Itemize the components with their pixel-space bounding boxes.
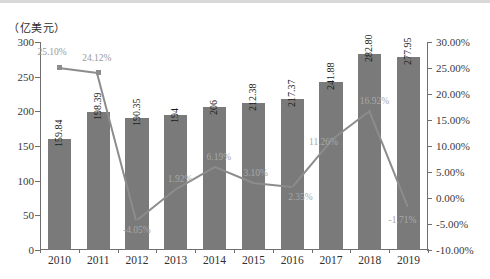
x-axis-tick bbox=[118, 249, 119, 253]
right-axis-tick-label: 15.00% bbox=[436, 114, 470, 126]
line-segment bbox=[59, 67, 98, 74]
bar bbox=[358, 54, 381, 250]
x-axis-tick bbox=[389, 249, 390, 253]
plot-area: 300250200150100500 30.00%25.00%20.00%15.… bbox=[40, 42, 428, 250]
left-axis-tick bbox=[35, 146, 40, 147]
top-divider-rule bbox=[0, 0, 490, 3]
left-axis-tick-label: 250 bbox=[18, 71, 35, 83]
x-axis-category-label: 2016 bbox=[273, 254, 312, 266]
percent-value-label: 25.10% bbox=[37, 47, 66, 57]
bar-value-label: 159.84 bbox=[53, 120, 64, 148]
right-axis-tick-label: 0.00% bbox=[436, 192, 464, 204]
bar bbox=[87, 112, 110, 250]
left-axis-tick bbox=[35, 111, 40, 112]
percent-value-label: -1.71% bbox=[389, 215, 417, 225]
line-marker bbox=[57, 65, 62, 70]
x-axis-category-label: 2010 bbox=[40, 254, 79, 266]
right-axis-tick bbox=[427, 224, 432, 225]
right-axis-tick bbox=[427, 198, 432, 199]
x-axis-tick bbox=[234, 249, 235, 253]
line-marker bbox=[96, 70, 101, 75]
bar-value-label: 212.38 bbox=[247, 83, 258, 111]
bar-value-label: 198.39 bbox=[92, 93, 103, 121]
left-value-axis bbox=[40, 42, 41, 250]
x-axis-category-label: 2019 bbox=[389, 254, 428, 266]
x-axis-category-label: 2017 bbox=[312, 254, 351, 266]
combo-chart: （亿美元） 300250200150100500 30.00%25.00%20.… bbox=[0, 0, 490, 279]
right-axis-tick-label: 25.00% bbox=[436, 62, 470, 74]
left-axis-tick bbox=[35, 42, 40, 43]
left-axis-tick-label: 50 bbox=[23, 209, 34, 221]
right-axis-tick bbox=[427, 172, 432, 173]
left-axis-tick-label: 200 bbox=[18, 105, 35, 117]
x-axis-tick bbox=[273, 249, 274, 253]
x-axis-category-label: 2013 bbox=[156, 254, 195, 266]
right-axis-tick-label: 30.00% bbox=[436, 36, 470, 48]
right-axis-tick-label: 5.00% bbox=[436, 166, 464, 178]
y-axis-unit-label: （亿美元） bbox=[8, 19, 66, 35]
bar bbox=[203, 107, 226, 250]
right-axis-tick-label: 20.00% bbox=[436, 88, 470, 100]
percent-value-label: 2.35% bbox=[288, 192, 313, 202]
percent-value-label: 6.19% bbox=[207, 152, 232, 162]
bar-value-label: 206 bbox=[208, 100, 219, 115]
x-axis-category-label: 2011 bbox=[79, 254, 118, 266]
x-axis-tick bbox=[79, 249, 80, 253]
bar bbox=[319, 82, 342, 250]
x-axis-category-label: 2012 bbox=[118, 254, 157, 266]
right-axis-tick bbox=[427, 42, 432, 43]
percent-value-label: 3.10% bbox=[243, 168, 268, 178]
percent-value-label: 16.92% bbox=[360, 96, 389, 106]
percent-value-label: 1.92% bbox=[168, 174, 193, 184]
left-axis-tick bbox=[35, 77, 40, 78]
percent-value-label: 11.26% bbox=[309, 137, 338, 147]
bar-value-label: 190.35 bbox=[131, 99, 142, 127]
x-axis-category-label: 2018 bbox=[350, 254, 389, 266]
right-axis-tick-label: 10.00% bbox=[436, 140, 470, 152]
left-axis-tick-label: 150 bbox=[18, 140, 35, 152]
right-axis-tick bbox=[427, 146, 432, 147]
percent-value-label: 24.12% bbox=[82, 53, 111, 63]
x-axis-category-label: 2015 bbox=[234, 254, 273, 266]
left-axis-tick-label: 100 bbox=[18, 175, 35, 187]
left-axis-tick-label: 0 bbox=[29, 244, 35, 256]
bar-value-label: 241.88 bbox=[325, 63, 336, 91]
right-axis-tick bbox=[427, 94, 432, 95]
bar-value-label: 217.37 bbox=[286, 80, 297, 108]
percent-value-label: -4.05% bbox=[123, 225, 151, 235]
right-axis-tick bbox=[427, 68, 432, 69]
bar-value-label: 194 bbox=[169, 108, 180, 123]
x-axis-tick bbox=[40, 249, 41, 253]
x-axis-tick bbox=[195, 249, 196, 253]
bar-value-label: 282.80 bbox=[363, 34, 374, 62]
bar-value-label: 277.95 bbox=[402, 38, 413, 66]
left-axis-tick-label: 300 bbox=[18, 36, 35, 48]
x-axis-tick bbox=[156, 249, 157, 253]
right-axis-tick-label: -5.00% bbox=[436, 218, 468, 230]
x-axis-tick bbox=[312, 249, 313, 253]
bar bbox=[48, 139, 71, 250]
right-axis-tick-label: -10.00% bbox=[436, 244, 474, 256]
x-axis-tick bbox=[350, 249, 351, 253]
left-axis-tick bbox=[35, 181, 40, 182]
x-axis-category-label: 2014 bbox=[195, 254, 234, 266]
x-axis-tick bbox=[428, 249, 429, 253]
right-axis-tick bbox=[427, 120, 432, 121]
left-axis-tick bbox=[35, 215, 40, 216]
